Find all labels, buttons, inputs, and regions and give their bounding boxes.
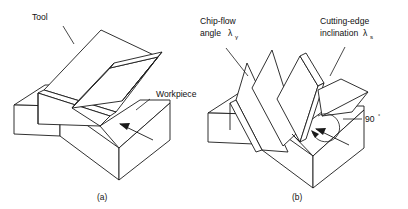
panel-b-chip-flow-leader: [226, 48, 248, 76]
panel-a-tool-label: Tool: [32, 12, 48, 22]
panel-b-inclination-label-line2: inclination: [320, 28, 358, 38]
panel-b-inclination-label-line1: Cutting-edge: [320, 16, 369, 26]
panel-b-chip-flow-symbol: λ: [228, 28, 233, 38]
panel-b-chip-flow-label-line2-group: angle λ γ: [200, 28, 239, 40]
panel-b-inclination-subscript: s: [370, 33, 373, 40]
panel-b-right-angle-value: 90: [365, 114, 375, 124]
panel-b-chip-flow-subscript: γ: [235, 33, 239, 40]
panel-b-chip-flow-label-line1: Chip-flow: [200, 16, 237, 26]
panel-b-group: [208, 47, 368, 188]
panel-b-right-angle-label-group: 90 °: [365, 113, 380, 124]
panel-b-inclination-symbol: λ: [363, 28, 368, 38]
machining-figure-svg: Tool Workpiece (a): [0, 0, 408, 209]
panel-b-chip-flow-label-line2: angle: [200, 28, 221, 38]
panel-a-caption: (a): [97, 192, 107, 202]
panel-a-tool-leader: [63, 26, 74, 44]
panel-b-degree-icon: °: [378, 113, 380, 119]
figure-root: Tool Workpiece (a): [0, 0, 408, 209]
panel-b-inclination-label-line2-group: inclination λ s: [320, 28, 373, 40]
panel-a-group: [14, 26, 170, 180]
panel-a-workpiece-label: Workpiece: [156, 89, 197, 99]
panel-b-caption: (b): [292, 192, 302, 202]
panel-b-inclination-leader: [330, 47, 345, 76]
